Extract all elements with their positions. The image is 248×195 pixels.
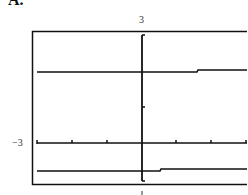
chart-frame [33, 32, 248, 185]
chart [0, 0, 247, 195]
